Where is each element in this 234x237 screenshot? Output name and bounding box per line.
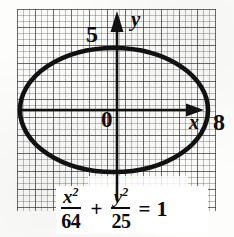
variable-x: x: [63, 186, 73, 207]
ellipse-equation: x2 64 + y2 25 = 1: [60, 187, 167, 231]
equals-operator: =: [131, 197, 154, 222]
ellipse-figure: 5 y x 8 0 x2 64 + y2 25 = 1: [0, 0, 234, 237]
right-hand-side-value: 1: [154, 196, 167, 222]
denominator-25: 25: [111, 209, 130, 231]
origin-label: 0: [101, 108, 113, 131]
y-axis-arrowhead: [111, 11, 124, 32]
plus-operator: +: [82, 197, 111, 222]
numerator-y-squared: y2: [112, 187, 130, 207]
x-intercept-label: 8: [213, 110, 225, 134]
numerator-x-squared: x2: [61, 187, 81, 207]
exponent-two-x: 2: [73, 185, 79, 199]
exponent-two-y: 2: [122, 185, 128, 199]
y-intercept-label: 5: [86, 22, 98, 46]
x-axis-label: x: [189, 112, 199, 132]
fraction-x-squared-over-64: x2 64: [61, 187, 81, 231]
y-axis-label: y: [131, 9, 140, 30]
fraction-y-squared-over-25: y2 25: [111, 187, 130, 231]
denominator-64: 64: [61, 209, 80, 231]
variable-y: y: [114, 186, 122, 207]
